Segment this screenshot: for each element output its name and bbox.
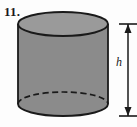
- figure-cylinder-problem-11: 11. h: [0, 0, 137, 127]
- height-dimension-label: h: [116, 56, 122, 69]
- dimension-arrowhead-up-icon: [125, 24, 132, 33]
- cylinder-top-ellipse: [18, 12, 108, 36]
- dimension-arrowhead-down-icon: [125, 107, 132, 116]
